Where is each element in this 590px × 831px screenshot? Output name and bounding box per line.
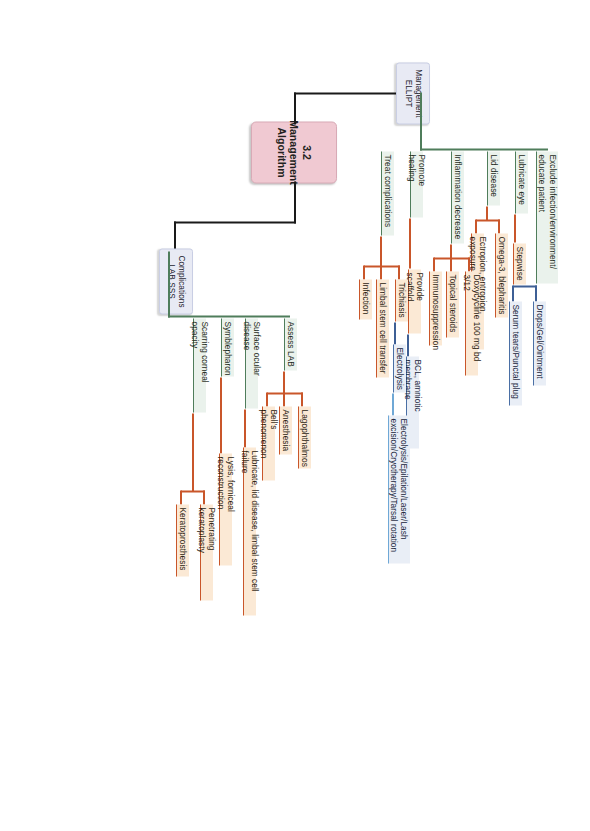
node-keratoprosthesis[interactable]: Keratoprosthesis <box>176 504 189 576</box>
node-electrolysis-options[interactable]: Electrolysis/Epilation/Laser/Lash excisi… <box>388 415 410 563</box>
node-stepwise[interactable]: Stepwise <box>513 243 526 284</box>
link-lubricate-to-stepwise <box>514 214 516 242</box>
link-inflammation-a <box>468 257 470 271</box>
node-surface-ocular-disease[interactable]: Surface ocular disease <box>245 318 258 408</box>
mindmap-canvas: 3.2 Management Algorithm Management ELLI… <box>0 0 590 831</box>
link-provide-scaffold-stem <box>407 334 409 356</box>
trunk-line-right <box>294 181 296 223</box>
link-inflammation-b <box>450 257 452 271</box>
link-stepwise-riser <box>513 285 537 287</box>
link-electrolysis-stem <box>392 393 394 415</box>
branch-management-box[interactable]: Management ELLIPT <box>396 62 430 124</box>
node-trichiasis[interactable]: Trichiasis <box>395 279 408 321</box>
link-lid-disease-riser <box>476 219 500 221</box>
management-spine <box>420 148 548 150</box>
node-exclude-infection[interactable]: Exclude infection/environment/ educate p… <box>536 151 558 283</box>
node-lubricate-lid-disease-lsc-failure[interactable]: Lubricate, lid disease, limbal stem cell… <box>243 447 256 615</box>
node-lubricate-eye[interactable]: Lubricate eye <box>515 151 528 213</box>
trunk-line-to-complications <box>174 221 176 251</box>
node-doxycycline[interactable]: Doxycycline 100 mg bd 3/12 <box>465 271 478 375</box>
node-lysis-forniceal-reconstruction[interactable]: Lysis, forniceal reconstruction <box>219 453 232 565</box>
link-assess-stem <box>283 371 285 393</box>
node-electrolysis[interactable]: Electrolysis <box>393 344 406 392</box>
node-lid-disease[interactable]: Lid disease <box>487 151 500 205</box>
node-omega3-blepharitis[interactable]: Omega-3, blepharitis <box>495 233 508 317</box>
link-assess-c <box>266 392 268 406</box>
node-bells-phenomenon[interactable]: Bell's phenomenon <box>262 406 275 480</box>
link-stepwise-top <box>535 285 537 301</box>
management-spine-connector <box>420 92 422 150</box>
link-lid-disease-a <box>498 219 500 233</box>
link-inflammation-riser <box>434 257 470 259</box>
node-lagophthalmos[interactable]: Lagophthalmos <box>298 406 311 468</box>
diagram-page: 3.2 Management Algorithm Management ELLI… <box>0 0 590 831</box>
node-immunosuppression[interactable]: Immunosuppression <box>429 271 442 345</box>
link-treat-stem <box>380 236 382 266</box>
link-promote-healing-stem <box>409 218 411 268</box>
link-stepwise-bot <box>512 285 514 301</box>
link-lid-disease-b <box>475 219 477 233</box>
link-scarring-riser <box>181 490 205 492</box>
link-treat-c <box>363 265 365 279</box>
complications-spine <box>168 315 290 317</box>
link-inflammation-stem <box>450 244 452 258</box>
node-treat-complications[interactable]: Treat complications <box>381 151 394 235</box>
branch-complications-box[interactable]: Complications LAB SSS <box>159 248 193 314</box>
trunk-riser-complications <box>174 221 296 223</box>
link-treat-riser <box>364 265 400 267</box>
node-penetrating-keratoplasty[interactable]: Penetrating keratoplasty <box>200 504 213 600</box>
link-scarring-b <box>180 490 182 504</box>
link-trichiasis-stem <box>394 322 396 344</box>
link-inflammation-c <box>433 257 435 271</box>
node-anesthesia[interactable]: Anesthesia <box>279 406 292 454</box>
node-assess-lab[interactable]: Assess LAB <box>284 318 297 370</box>
link-treat-b <box>380 265 382 279</box>
link-lid-disease-stem <box>486 206 488 220</box>
link-surface-stem <box>244 409 246 447</box>
link-scarring-a <box>203 490 205 504</box>
complications-spine-connector <box>168 251 170 317</box>
node-inflammation-decrease[interactable]: Inflammation decrease <box>451 151 464 243</box>
node-scarring-corneal-opacity[interactable]: Scarring corneal opacity <box>193 318 206 412</box>
node-provide-scaffold[interactable]: Provide scaffold <box>408 269 421 333</box>
link-scarring-stem <box>192 413 194 491</box>
trunk-line-left <box>294 92 296 124</box>
trunk-riser-management <box>294 92 412 94</box>
root-node[interactable]: 3.2 Management Algorithm <box>251 121 337 183</box>
link-assess-b <box>283 392 285 406</box>
link-treat-a <box>398 265 400 279</box>
node-topical-steroids[interactable]: Topical steroids <box>446 271 459 337</box>
node-promote-healing[interactable]: Promote healing <box>410 151 423 217</box>
link-assess-riser <box>267 392 303 394</box>
node-serum-tears-punctal-plug[interactable]: Serum tears/Punctal plug <box>509 301 522 405</box>
node-limbal-stem-cell-transfer[interactable]: Limbal stem cell transfer <box>376 279 389 377</box>
link-symblepharon-stem <box>220 377 222 453</box>
node-symblepharon[interactable]: Symblepharon <box>221 318 234 376</box>
node-infection[interactable]: Infection <box>359 279 372 319</box>
link-assess-a <box>301 392 303 406</box>
node-drops-gel-ointment[interactable]: Drops/Gel/Ointment <box>533 301 546 385</box>
